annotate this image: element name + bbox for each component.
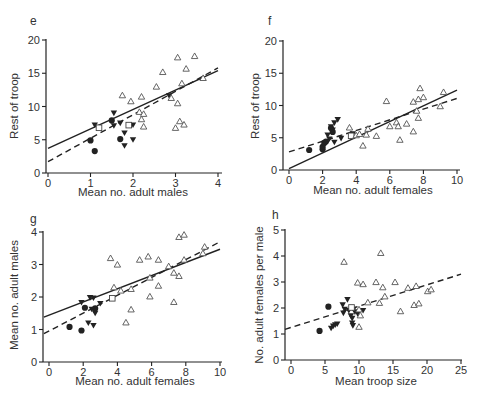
data-point-filled-triangle-down-g — [92, 311, 98, 317]
data-point-open-triangle-up-h — [397, 308, 403, 314]
data-point-filled-triangle-down-h — [344, 297, 350, 303]
data-point-open-triangle-up-h — [341, 259, 347, 265]
data-point-open-square-e — [126, 122, 132, 128]
y-tick-label-g: 4 — [31, 226, 37, 238]
y-tick-label-h: 2 — [273, 302, 279, 314]
data-point-filled-triangle-down-e — [111, 111, 117, 117]
data-point-open-square-e — [96, 125, 102, 131]
dashed-regression-line-e — [48, 68, 218, 162]
data-point-filled-triangle-down-e — [121, 143, 127, 149]
data-point-open-triangle-up-h — [416, 300, 422, 306]
dashed-regression-line-f — [289, 98, 457, 152]
x-tick-label-f: 6 — [387, 174, 393, 186]
data-point-open-triangle-up-g — [128, 306, 134, 312]
data-point-open-triangle-up-g — [171, 270, 177, 276]
data-point-filled-triangle-down-h — [350, 323, 356, 329]
plot-area-h: 0510152025012345 — [273, 224, 467, 376]
data-point-open-triangle-up-h — [405, 285, 411, 291]
data-point-open-triangle-up-f — [403, 121, 409, 127]
y-tick-label-e: 20 — [28, 34, 40, 46]
x-tick-label-h: 5 — [322, 364, 328, 376]
solid-regression-line-f — [289, 90, 457, 169]
data-point-filled-triangle-down-g — [78, 300, 84, 306]
data-point-open-triangle-up-e — [172, 125, 178, 131]
x-tick-label-e: 1 — [87, 177, 93, 189]
data-point-open-triangle-up-g — [114, 262, 120, 268]
y-axis-label-f: Rest of troop — [249, 73, 261, 139]
data-point-filled-triangle-down-e — [117, 121, 123, 127]
x-tick-label-h: 0 — [288, 364, 294, 376]
x-tick-label-g: 8 — [183, 366, 189, 378]
panel-g: g Mean no. adult females Mean no. adult … — [8, 212, 226, 387]
x-tick-label-g: 10 — [214, 366, 226, 378]
data-point-open-triangle-up-e — [153, 84, 159, 90]
x-axis-label-f: Mean no. adult females — [313, 184, 433, 196]
panel-f: f Mean no. adult females Rest of troop 0… — [249, 14, 463, 196]
data-point-open-triangle-up-e — [128, 98, 134, 104]
data-point-filled-circle-g — [66, 324, 72, 330]
data-point-open-triangle-up-e — [174, 54, 180, 60]
x-tick-label-e: 2 — [130, 177, 136, 189]
data-point-open-triangle-up-g — [166, 263, 172, 269]
plot-area-g: 024681001234 — [31, 226, 226, 378]
data-point-filled-triangle-down-e — [130, 137, 136, 143]
y-tick-label-g: 0 — [31, 356, 37, 368]
x-tick-label-g: 6 — [149, 366, 155, 378]
data-point-open-triangle-up-f — [437, 103, 443, 109]
x-tick-label-f: 10 — [451, 174, 463, 186]
data-point-filled-circle-e — [92, 148, 98, 154]
x-axis-label-h: Mean troop size — [335, 375, 417, 387]
y-tick-label-e: 15 — [28, 67, 40, 79]
data-point-open-triangle-up-h — [373, 279, 379, 285]
data-point-open-triangle-up-e — [119, 92, 125, 98]
data-point-open-triangle-up-g — [171, 299, 177, 305]
data-point-filled-triangle-down-f — [338, 136, 344, 142]
data-point-open-triangle-up-e — [191, 53, 197, 59]
x-tick-label-e: 4 — [215, 177, 221, 189]
y-tick-label-f: 15 — [265, 67, 277, 79]
data-point-filled-circle-e — [87, 137, 93, 143]
data-point-open-triangle-up-h — [376, 300, 382, 306]
data-point-open-triangle-up-h — [413, 283, 419, 289]
data-point-filled-triangle-down-f — [331, 140, 337, 146]
data-point-open-triangle-up-h — [378, 250, 384, 256]
data-point-open-triangle-up-h — [360, 281, 366, 287]
data-point-open-triangle-up-f — [397, 137, 403, 143]
data-point-open-triangle-up-g — [136, 257, 142, 263]
y-tick-label-f: 20 — [265, 35, 277, 47]
x-tick-label-g: 2 — [80, 366, 86, 378]
y-axis-label-h: No. adult females per male — [253, 226, 265, 363]
data-point-open-triangle-up-f — [440, 89, 446, 95]
data-point-filled-triangle-down-h — [340, 311, 346, 317]
data-point-open-triangle-up-g — [111, 284, 117, 290]
data-point-open-square-g — [109, 296, 115, 302]
data-point-open-triangle-up-h — [365, 299, 371, 305]
data-point-open-triangle-up-e — [179, 80, 185, 86]
data-point-open-triangle-up-g — [201, 244, 207, 250]
data-point-open-triangle-up-h — [356, 324, 362, 330]
data-point-open-triangle-up-g — [181, 232, 187, 238]
data-point-open-triangle-up-e — [174, 100, 180, 106]
x-tick-label-f: 2 — [320, 174, 326, 186]
x-tick-label-e: 3 — [172, 177, 178, 189]
data-point-open-triangle-up-e — [138, 116, 144, 122]
data-point-open-triangle-up-h — [354, 280, 360, 286]
data-point-open-triangle-up-g — [145, 253, 151, 259]
y-tick-label-e: 5 — [34, 134, 40, 146]
data-point-open-triangle-up-g — [107, 255, 113, 261]
panel-h: h Mean troop size No. adult females per … — [253, 208, 467, 387]
x-tick-label-h: 10 — [353, 364, 365, 376]
x-tick-label-f: 8 — [420, 174, 426, 186]
panel-letter-f: f — [268, 14, 272, 28]
data-point-open-triangle-up-g — [155, 257, 161, 263]
plot-area-e: 0123405101520 — [28, 34, 222, 189]
y-tick-label-h: 4 — [273, 250, 279, 262]
figure-panels: e Mean no. adult males Rest of troop 012… — [0, 0, 484, 403]
data-point-open-triangle-up-g — [155, 283, 161, 289]
y-tick-label-g: 2 — [31, 291, 37, 303]
y-axis-label-g: Mean no. adult males — [8, 240, 20, 350]
x-tick-label-h: 15 — [387, 364, 399, 376]
data-point-filled-circle-e — [109, 117, 115, 123]
data-point-open-triangle-up-f — [417, 85, 423, 91]
data-point-open-triangle-up-f — [387, 123, 393, 129]
